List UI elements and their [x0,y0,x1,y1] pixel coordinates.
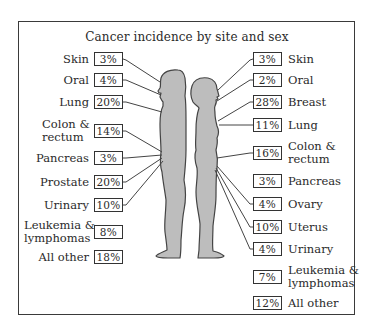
male-label-rectum: rectum [42,131,84,144]
male-value-lung: 20% [94,95,123,109]
female-value-urinary: 4% [253,242,282,256]
male-value-urinary: 10% [94,198,123,212]
female-value-leukemia: 7% [253,270,282,284]
male-value-leukemia: 8% [94,225,123,239]
female-label-uterus: Uterus [288,221,328,234]
male-label-lung: Lung [59,96,89,109]
female-value-skin: 3% [253,52,282,66]
male-label-pancreas: Pancreas [36,152,89,165]
male-value-all-other: 18% [94,250,123,264]
female-label-lymphomas: lymphomas [288,277,354,290]
female-label-breast: Breast [288,96,326,109]
female-label-lung: Lung [288,119,318,132]
female-label-urinary: Urinary [288,243,333,256]
female-label-ovary: Ovary [288,198,323,211]
male-label-urinary: Urinary [44,199,89,212]
female-value-breast: 28% [253,95,282,109]
female-label-rectum: rectum [288,153,330,166]
female-value-oral: 2% [253,73,282,87]
female-value-pancreas: 3% [253,174,282,188]
male-label-skin: Skin [63,53,89,66]
female-label-pancreas: Pancreas [288,175,341,188]
male-label-all-other: All other [38,251,89,264]
female-value-lung: 11% [253,118,282,132]
female-label-all-other: All other [288,297,339,310]
female-value-colon-rectum: 16% [253,146,282,160]
female-value-all-other: 12% [253,296,282,310]
female-value-uterus: 10% [253,220,282,234]
female-label-oral: Oral [288,74,313,87]
male-label-oral: Oral [64,74,89,87]
male-label-lymphomas: lymphomas [24,232,90,245]
female-label-skin: Skin [288,53,314,66]
female-leader-lines [215,59,253,249]
male-label-prostate: Prostate [40,176,89,189]
male-leader-lines [123,59,163,205]
male-value-skin: 3% [94,52,123,66]
female-value-ovary: 4% [253,197,282,211]
male-value-colon-rectum: 14% [94,124,123,138]
male-value-oral: 4% [94,73,123,87]
male-value-prostate: 20% [94,175,123,189]
male-value-pancreas: 3% [94,151,123,165]
